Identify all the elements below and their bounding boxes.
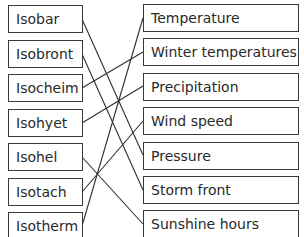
line-isohyet-precipitation <box>82 86 143 123</box>
meaning-box-storm-front: Storm front <box>143 176 299 204</box>
term-box-isobront: Isobront <box>8 40 83 68</box>
line-isotach-wind-speed <box>82 121 143 192</box>
line-isocheim-winter-temperatures <box>82 52 143 88</box>
term-box-isotherm: Isotherm <box>8 212 83 237</box>
line-isohel-sunshine-hours <box>82 157 143 224</box>
line-isotherm-temperature <box>82 18 143 226</box>
meaning-box-temperature: Temperature <box>143 4 299 32</box>
term-box-isotach: Isotach <box>8 178 83 206</box>
line-isobar-pressure <box>82 19 143 155</box>
meaning-box-winter-temperatures: Winter temperatures <box>143 38 299 66</box>
term-box-isohel: Isohel <box>8 143 83 171</box>
meaning-box-wind-speed: Wind speed <box>143 107 299 135</box>
term-box-isocheim: Isocheim <box>8 74 83 102</box>
meaning-box-pressure: Pressure <box>143 142 299 170</box>
term-box-isohyet: Isohyet <box>8 109 83 137</box>
meaning-box-precipitation: Precipitation <box>143 73 299 101</box>
term-box-isobar: Isobar <box>8 5 83 33</box>
meaning-box-sunshine-hours: Sunshine hours <box>143 210 299 237</box>
